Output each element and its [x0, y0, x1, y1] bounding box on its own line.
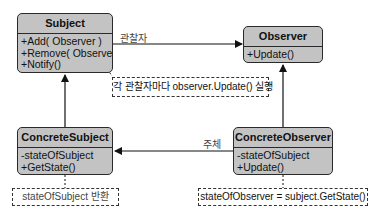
member-update: +Update() — [237, 162, 329, 174]
class-concrete-observer: ConcreteObserver -stateOfSubject +Update… — [233, 127, 333, 175]
note-update: stateOfObserver = subject.GetState() — [198, 188, 368, 206]
member-state-of-subject: -stateOfSubject — [21, 150, 109, 162]
class-observer: Observer +Update() — [243, 26, 323, 63]
note-notify: 각 관찰자마다 observer.Update() 실행 — [112, 77, 269, 97]
member-get-state: +GetState() — [21, 162, 109, 174]
class-subject-members: +Add( Observer ) +Remove( Observer ) +No… — [18, 34, 112, 71]
class-observer-name: Observer — [244, 27, 322, 47]
note-get-state: stateOfSubject 반환 — [12, 188, 119, 206]
class-subject-name: Subject — [18, 14, 112, 34]
class-concrete-observer-members: -stateOfSubject +Update() — [234, 148, 332, 173]
class-concrete-subject-members: -stateOfSubject +GetState() — [18, 148, 112, 173]
class-concrete-subject: ConcreteSubject -stateOfSubject +GetStat… — [17, 127, 113, 175]
class-observer-members: +Update() — [244, 47, 322, 61]
member-state-of-subject: -stateOfSubject — [237, 150, 329, 162]
member-add: +Add( Observer ) — [21, 36, 109, 48]
member-notify: +Notify() — [21, 59, 109, 71]
member-update: +Update() — [247, 49, 319, 61]
relation-label-subject: 주체 — [203, 136, 221, 151]
class-concrete-observer-name: ConcreteObserver — [234, 128, 332, 148]
class-concrete-subject-name: ConcreteSubject — [18, 128, 112, 148]
relation-label-observer: 관찰자 — [120, 30, 147, 45]
class-subject: Subject +Add( Observer ) +Remove( Observ… — [17, 13, 113, 73]
